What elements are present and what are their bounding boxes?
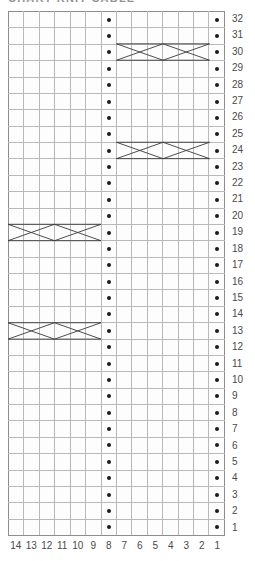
chart-cell[interactable] xyxy=(101,355,116,371)
chart-cell[interactable] xyxy=(163,437,178,453)
chart-cell[interactable] xyxy=(194,372,209,388)
chart-cell[interactable] xyxy=(9,44,24,60)
chart-cell[interactable] xyxy=(209,339,225,355)
chart-cell[interactable] xyxy=(194,93,209,109)
chart-cell[interactable] xyxy=(101,503,116,519)
chart-cell[interactable] xyxy=(39,421,54,437)
chart-cell[interactable] xyxy=(116,372,131,388)
chart-cell[interactable] xyxy=(39,28,54,44)
chart-cell[interactable] xyxy=(116,61,131,77)
chart-cell[interactable] xyxy=(194,274,209,290)
chart-cell[interactable] xyxy=(147,388,162,404)
chart-cell[interactable] xyxy=(101,192,116,208)
chart-cell[interactable] xyxy=(9,77,24,93)
chart-cell[interactable] xyxy=(55,519,70,535)
chart-cell[interactable] xyxy=(178,339,193,355)
chart-cell[interactable] xyxy=(209,224,225,240)
chart-cell[interactable] xyxy=(209,372,225,388)
chart-cell[interactable] xyxy=(39,143,54,159)
chart-cell[interactable] xyxy=(209,159,225,175)
chart-cell[interactable] xyxy=(55,110,70,126)
chart-cell[interactable] xyxy=(132,421,147,437)
chart-cell[interactable] xyxy=(163,93,178,109)
chart-cell[interactable] xyxy=(178,470,193,486)
chart-cell[interactable] xyxy=(101,224,116,240)
chart-cell[interactable] xyxy=(116,175,131,191)
chart-cell[interactable] xyxy=(39,126,54,142)
chart-cell[interactable] xyxy=(9,290,24,306)
chart-cell[interactable] xyxy=(55,372,70,388)
chart-cell[interactable] xyxy=(132,437,147,453)
chart-cell[interactable] xyxy=(132,44,147,60)
chart-cell[interactable] xyxy=(116,290,131,306)
chart-cell[interactable] xyxy=(101,110,116,126)
chart-cell[interactable] xyxy=(147,355,162,371)
chart-cell[interactable] xyxy=(70,77,85,93)
chart-cell[interactable] xyxy=(24,175,39,191)
chart-cell[interactable] xyxy=(70,274,85,290)
chart-cell[interactable] xyxy=(209,28,225,44)
chart-cell[interactable] xyxy=(209,77,225,93)
chart-cell[interactable] xyxy=(70,388,85,404)
chart-cell[interactable] xyxy=(24,77,39,93)
chart-cell[interactable] xyxy=(9,126,24,142)
chart-cell[interactable] xyxy=(116,486,131,502)
chart-cell[interactable] xyxy=(86,241,101,257)
chart-cell[interactable] xyxy=(163,470,178,486)
chart-cell[interactable] xyxy=(178,323,193,339)
chart-cell[interactable] xyxy=(116,437,131,453)
chart-cell[interactable] xyxy=(39,12,54,28)
chart-cell[interactable] xyxy=(55,274,70,290)
chart-cell[interactable] xyxy=(101,241,116,257)
chart-cell[interactable] xyxy=(24,159,39,175)
chart-cell[interactable] xyxy=(9,421,24,437)
chart-cell[interactable] xyxy=(9,339,24,355)
chart-cell[interactable] xyxy=(209,208,225,224)
chart-cell[interactable] xyxy=(147,274,162,290)
chart-cell[interactable] xyxy=(132,372,147,388)
chart-cell[interactable] xyxy=(209,192,225,208)
chart-cell[interactable] xyxy=(132,339,147,355)
chart-cell[interactable] xyxy=(194,224,209,240)
chart-cell[interactable] xyxy=(163,290,178,306)
chart-cell[interactable] xyxy=(178,110,193,126)
chart-cell[interactable] xyxy=(178,224,193,240)
chart-cell[interactable] xyxy=(9,306,24,322)
chart-cell[interactable] xyxy=(147,110,162,126)
chart-cell[interactable] xyxy=(116,519,131,535)
chart-cell[interactable] xyxy=(147,339,162,355)
chart-cell[interactable] xyxy=(39,355,54,371)
chart-cell[interactable] xyxy=(9,454,24,470)
chart-cell[interactable] xyxy=(24,470,39,486)
chart-cell[interactable] xyxy=(163,339,178,355)
chart-cell[interactable] xyxy=(86,175,101,191)
chart-cell[interactable] xyxy=(116,257,131,273)
chart-cell[interactable] xyxy=(163,192,178,208)
chart-cell[interactable] xyxy=(147,77,162,93)
chart-cell[interactable] xyxy=(70,503,85,519)
chart-cell[interactable] xyxy=(132,143,147,159)
chart-cell[interactable] xyxy=(24,208,39,224)
chart-cell[interactable] xyxy=(101,339,116,355)
chart-cell[interactable] xyxy=(147,192,162,208)
chart-cell[interactable] xyxy=(70,454,85,470)
chart-cell[interactable] xyxy=(86,486,101,502)
chart-cell[interactable] xyxy=(70,241,85,257)
chart-cell[interactable] xyxy=(178,405,193,421)
chart-cell[interactable] xyxy=(132,323,147,339)
chart-cell[interactable] xyxy=(55,159,70,175)
chart-cell[interactable] xyxy=(101,44,116,60)
chart-cell[interactable] xyxy=(9,372,24,388)
chart-cell[interactable] xyxy=(163,143,178,159)
chart-cell[interactable] xyxy=(24,519,39,535)
chart-cell[interactable] xyxy=(55,486,70,502)
chart-cell[interactable] xyxy=(163,388,178,404)
chart-cell[interactable] xyxy=(163,12,178,28)
chart-cell[interactable] xyxy=(24,454,39,470)
chart-cell[interactable] xyxy=(9,503,24,519)
chart-cell[interactable] xyxy=(163,28,178,44)
chart-cell[interactable] xyxy=(55,224,70,240)
chart-cell[interactable] xyxy=(39,44,54,60)
chart-cell[interactable] xyxy=(39,388,54,404)
chart-cell[interactable] xyxy=(24,12,39,28)
